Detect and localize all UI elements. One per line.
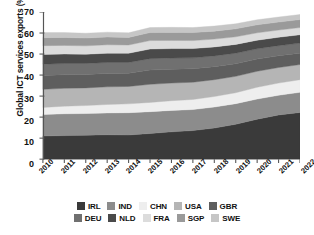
legend-swatch-usa [174, 202, 182, 210]
area-series-group [38, 12, 300, 164]
y-tick-0: 0 [2, 159, 34, 169]
legend-item-sgp[interactable]: SGP [177, 214, 205, 223]
legend-item-chn[interactable]: CHN [139, 202, 167, 211]
y-tick-10: 10 [2, 137, 34, 147]
legend-label-irl: IRL [88, 202, 101, 211]
y-tick-50: 50 [2, 50, 34, 60]
legend-label-fra: FRA [154, 214, 170, 223]
legend-swatch-deu [74, 214, 82, 222]
legend-swatch-ind [107, 202, 115, 210]
stacked-area-chart-figure: Global ICT services exports (%) 01020304… [0, 0, 314, 235]
plot-area [38, 12, 300, 164]
legend-swatch-irl [77, 202, 85, 210]
legend-label-deu: DEU [85, 214, 102, 223]
y-tick-70: 70 [2, 7, 34, 17]
legend-label-nld: NLD [119, 214, 135, 223]
legend-item-irl[interactable]: IRL [77, 202, 101, 211]
chart-legend: IRLINDCHNUSAGBR DEUNLDFRASGPSWE [0, 200, 314, 224]
legend-swatch-nld [108, 214, 116, 222]
legend-swatch-fra [143, 214, 151, 222]
legend-swatch-swe [211, 214, 219, 222]
legend-item-nld[interactable]: NLD [108, 214, 135, 223]
legend-swatch-gbr [209, 202, 217, 210]
legend-label-gbr: GBR [220, 202, 237, 211]
legend-item-usa[interactable]: USA [174, 202, 202, 211]
y-tick-60: 60 [2, 29, 34, 39]
legend-item-gbr[interactable]: GBR [209, 202, 237, 211]
x-tick-2022: 2022 [299, 157, 314, 175]
legend-label-sgp: SGP [188, 214, 205, 223]
legend-label-chn: CHN [150, 202, 167, 211]
legend-row-top: IRLINDCHNUSAGBR [0, 200, 314, 212]
legend-label-swe: SWE [222, 214, 240, 223]
legend-swatch-chn [139, 202, 147, 210]
legend-label-ind: IND [118, 202, 131, 211]
y-tick-40: 40 [2, 72, 34, 82]
legend-swatch-sgp [177, 214, 185, 222]
y-tick-20: 20 [2, 116, 34, 126]
legend-item-ind[interactable]: IND [107, 202, 131, 211]
legend-row-bottom: DEUNLDFRASGPSWE [0, 212, 314, 224]
legend-item-swe[interactable]: SWE [211, 214, 240, 223]
legend-item-deu[interactable]: DEU [74, 214, 102, 223]
legend-label-usa: USA [185, 202, 202, 211]
y-tick-30: 30 [2, 94, 34, 104]
legend-item-fra[interactable]: FRA [143, 214, 170, 223]
y-axis-tick-labels: 010203040506070 [0, 12, 34, 164]
